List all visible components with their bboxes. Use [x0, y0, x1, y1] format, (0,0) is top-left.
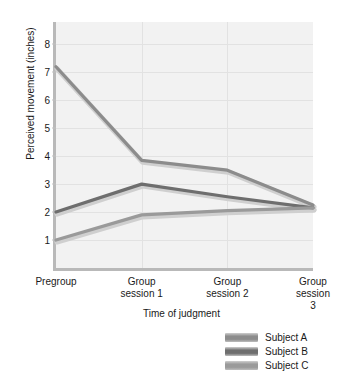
- legend-item: Subject B: [225, 345, 308, 357]
- x-axis-tick-label: Group session 3: [296, 276, 330, 312]
- legend-swatch: [225, 361, 258, 370]
- plot-inner: 87654321PregroupGroup session 1Group ses…: [56, 22, 313, 268]
- plot-area: 87654321PregroupGroup session 1Group ses…: [53, 22, 313, 271]
- x-axis-tick-label: Pregroup: [35, 276, 76, 288]
- y-axis-tick-label: 1: [44, 235, 50, 246]
- legend-swatch: [225, 333, 258, 342]
- chart-legend: Subject ASubject BSubject C: [225, 331, 308, 373]
- y-axis-tick-label: 6: [44, 95, 50, 106]
- line-chart-figure: Perceived movement (inches) 87654321Preg…: [0, 0, 349, 384]
- y-axis-title: Perceived movement (inches): [25, 0, 36, 194]
- legend-item: Subject A: [225, 331, 308, 343]
- legend-label: Subject B: [265, 346, 308, 357]
- x-axis-tick-label: Group session 2: [206, 276, 248, 300]
- series-line: [56, 67, 313, 205]
- x-axis-tick-label: Group session 1: [121, 276, 163, 300]
- y-axis-tick-label: 3: [44, 179, 50, 190]
- x-axis-title: Time of judgment: [53, 308, 310, 319]
- legend-label: Subject A: [265, 332, 307, 343]
- y-axis-tick-label: 8: [44, 39, 50, 50]
- y-axis-tick-label: 5: [44, 123, 50, 134]
- y-axis-tick-label: 4: [44, 151, 50, 162]
- y-axis-tick-label: 2: [44, 207, 50, 218]
- series-line-shadow: [57, 69, 314, 207]
- y-axis-tick-label: 7: [44, 67, 50, 78]
- series-line-shadow: [57, 210, 314, 242]
- legend-swatch: [225, 347, 258, 356]
- legend-label: Subject C: [265, 360, 308, 371]
- legend-item: Subject C: [225, 359, 308, 371]
- series-layer: [56, 22, 313, 268]
